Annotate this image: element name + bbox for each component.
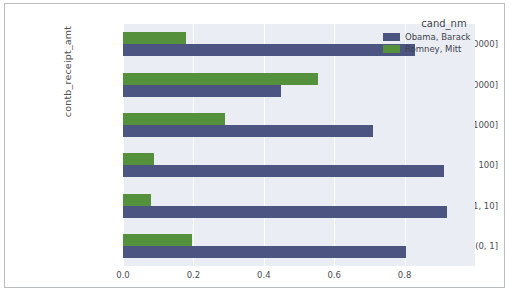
y-axis-title: contb_receipt_amt <box>62 0 73 152</box>
legend-swatch-icon <box>383 33 400 41</box>
bar-romney <box>123 32 186 44</box>
bar-obama <box>123 44 415 56</box>
legend-title: cand_nm <box>383 18 501 29</box>
bar-obama <box>123 85 281 97</box>
bar-obama <box>123 125 373 137</box>
legend-label: Obama, Barack <box>405 32 471 42</box>
legend-label: Romney, Mitt <box>405 44 461 54</box>
bar-obama <box>123 206 447 218</box>
legend-item: Romney, Mitt <box>383 43 501 54</box>
legend: cand_nm Obama, BarackRomney, Mitt <box>383 18 501 55</box>
gridline-0.4 <box>264 24 265 266</box>
gridline-0.6 <box>334 24 335 266</box>
bar-romney <box>123 153 154 165</box>
bar-obama <box>123 246 406 258</box>
gridline-0.2 <box>193 24 194 266</box>
bar-romney <box>123 113 225 125</box>
x-tick-label: 0.0 <box>116 270 130 280</box>
x-tick-label: 0.4 <box>257 270 271 280</box>
bar-obama <box>123 165 444 177</box>
gridline-0.8 <box>405 24 406 266</box>
legend-swatch-icon <box>383 45 400 53</box>
gridline-0.0 <box>123 24 124 266</box>
bar-romney <box>123 73 318 85</box>
legend-item: Obama, Barack <box>383 31 501 42</box>
figure-frame: contb_receipt_amt (10000, 100000](1000, … <box>4 3 505 288</box>
bar-romney <box>123 194 151 206</box>
bar-romney <box>123 234 192 246</box>
x-tick-label: 0.8 <box>398 270 412 280</box>
x-tick-label: 0.6 <box>327 270 341 280</box>
legend-items: Obama, BarackRomney, Mitt <box>383 31 501 54</box>
plot-area <box>123 24 475 266</box>
x-tick-label: 0.2 <box>187 270 201 280</box>
